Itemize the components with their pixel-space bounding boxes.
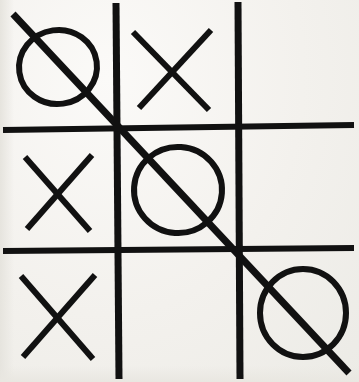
cell-bottom-right[interactable]: [238, 251, 359, 382]
tic-tac-toe-board: [0, 0, 359, 382]
cell-middle-left[interactable]: [0, 130, 116, 251]
cell-top-center[interactable]: [116, 0, 238, 130]
cell-middle-center[interactable]: [116, 130, 238, 251]
cell-top-right[interactable]: [238, 0, 359, 130]
cell-middle-right[interactable]: [238, 130, 359, 251]
cell-bottom-left[interactable]: [0, 251, 116, 382]
cell-top-left[interactable]: [0, 0, 116, 130]
cell-bottom-center[interactable]: [116, 251, 238, 382]
